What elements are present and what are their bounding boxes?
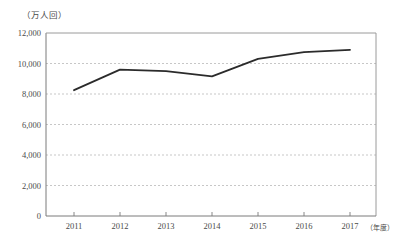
data-series-line (74, 50, 350, 90)
line-chart: （万人回） 02,0004,0006,0008,00010,00012,000 … (0, 0, 404, 248)
chart-plot-area: 02,0004,0006,0008,00010,00012,000 201120… (0, 0, 404, 248)
y-gridlines (46, 64, 376, 186)
x-axis-ticks (74, 212, 350, 216)
x-tick-label: 2016 (296, 221, 313, 231)
x-tick-label: 2014 (204, 221, 222, 231)
x-tick-label: 2015 (250, 221, 267, 231)
y-tick-label: 4,000 (22, 150, 41, 160)
y-tick-label: 10,000 (18, 59, 41, 69)
y-axis-tick-labels: 02,0004,0006,0008,00010,00012,000 (18, 28, 41, 221)
y-tick-label: 0 (37, 211, 41, 221)
y-tick-label: 8,000 (22, 89, 41, 99)
y-tick-label: 2,000 (22, 181, 41, 191)
x-axis-tick-labels: 2011201220132014201520162017 (66, 221, 359, 231)
x-tick-label: 2013 (158, 221, 175, 231)
x-tick-label: 2011 (66, 221, 83, 231)
x-tick-label: 2012 (112, 221, 129, 231)
x-tick-label: 2017 (342, 221, 359, 231)
y-tick-label: 12,000 (18, 28, 41, 38)
y-tick-label: 6,000 (22, 120, 41, 130)
x-axis-unit-label: （年度） (366, 222, 394, 232)
